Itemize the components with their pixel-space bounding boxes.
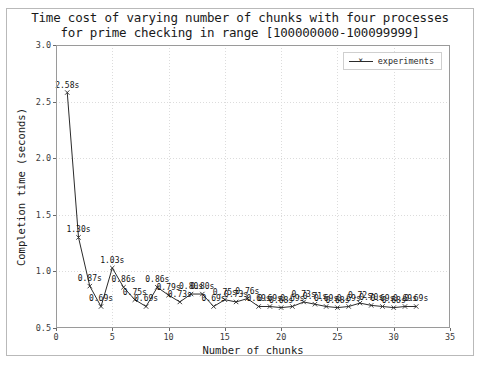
data-point-marker[interactable] xyxy=(144,304,148,308)
data-point-marker[interactable] xyxy=(178,300,182,304)
chart-title: Time cost of varying number of chunks wi… xyxy=(6,10,474,40)
point-value-label: 1.03s xyxy=(100,256,124,265)
x-tick-label: 35 xyxy=(445,332,455,342)
legend-marker-icon: × xyxy=(358,58,364,64)
point-value-label: 0.80s xyxy=(190,282,214,291)
legend-label-experiments: experiments xyxy=(378,56,434,66)
point-value-label: 0.86s xyxy=(111,275,135,284)
x-tick-label: 30 xyxy=(389,332,399,342)
x-tick-mark xyxy=(450,328,451,331)
point-value-label: 0.69s xyxy=(89,294,113,303)
y-tick-label: 2.0 xyxy=(36,153,51,163)
x-tick-mark xyxy=(394,328,395,331)
x-tick-mark xyxy=(337,328,338,331)
x-tick-mark xyxy=(169,328,170,331)
y-axis-label: Completion time (seconds) xyxy=(14,45,28,328)
x-tick-label: 10 xyxy=(163,332,173,342)
x-tick-mark xyxy=(56,328,57,331)
x-tick-mark xyxy=(112,328,113,331)
figure-canvas: Time cost of varying number of chunks wi… xyxy=(0,0,482,370)
x-tick-label: 0 xyxy=(53,332,58,342)
x-axis-label: Number of chunks xyxy=(56,344,450,356)
chart-title-line-1: Time cost of varying number of chunks wi… xyxy=(31,10,449,25)
data-point-marker[interactable] xyxy=(211,304,215,308)
y-tick-label: 1.0 xyxy=(36,266,51,276)
x-tick-mark xyxy=(225,328,226,331)
x-tick-label: 25 xyxy=(332,332,342,342)
point-value-label: 1.30s xyxy=(66,225,90,234)
y-tick-label: 1.5 xyxy=(36,210,51,220)
y-tick-label: 2.5 xyxy=(36,97,51,107)
point-value-label: 0.73s xyxy=(168,290,192,299)
x-tick-label: 5 xyxy=(110,332,115,342)
y-tick-label: 3.0 xyxy=(36,40,51,50)
legend[interactable]: × experiments xyxy=(343,52,442,70)
x-tick-label: 20 xyxy=(276,332,286,342)
point-value-label: 0.69s xyxy=(134,294,158,303)
x-tick-label: 15 xyxy=(220,332,230,342)
legend-line-swatch: × xyxy=(349,57,373,66)
x-tick-mark xyxy=(281,328,282,331)
point-value-label: 0.87s xyxy=(78,274,102,283)
chart-title-line-2: for prime checking in range [100000000-1… xyxy=(6,25,474,40)
series-experiments xyxy=(56,45,450,328)
point-value-label: 2.58s xyxy=(55,81,79,90)
plot-area: 0.51.01.52.02.53.005101520253035 2.58s1.… xyxy=(56,45,450,328)
point-value-label: 0.69s xyxy=(404,294,428,303)
y-tick-label: 0.5 xyxy=(36,323,51,333)
